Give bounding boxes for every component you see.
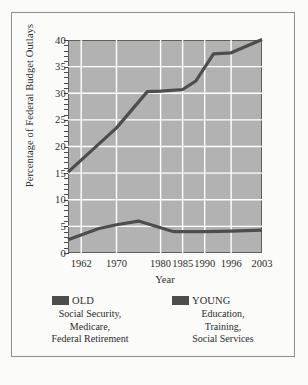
plot-area (68, 40, 262, 253)
series-line-old (68, 39, 262, 172)
legend-label-old: OLD (72, 295, 94, 306)
x-axis-tick-label: 1996 (214, 258, 248, 270)
y-axis-tick-label: 20 (40, 141, 66, 152)
legend-description-line: Medicare, (36, 321, 144, 334)
legend-description-line: Federal Retirement (36, 333, 144, 346)
series-line-young (68, 221, 262, 240)
x-axis-tick-label: 1962 (64, 258, 98, 270)
x-axis-tick-label: 2003 (245, 258, 279, 270)
legend-entry-young[interactable]: YOUNG (162, 294, 280, 307)
y-axis-tick-label: 30 (40, 88, 66, 99)
chart-legend: OLDSocial Security,Medicare,Federal Reti… (22, 294, 284, 352)
y-axis-tick-label: 35 (40, 61, 66, 72)
y-axis-tick-label: 10 (40, 194, 66, 205)
x-axis-title: Year (68, 274, 262, 285)
y-axis-tick-label: 25 (40, 114, 66, 125)
figure: Percentage of Federal Budget Outlays 403… (0, 0, 308, 385)
y-axis-tick-labels: 4035302520151050 (40, 33, 66, 260)
legend-column-young: YOUNGEducation,Training,Social Services (162, 294, 280, 352)
legend-swatch-old (52, 296, 69, 305)
legend-description-young: Education,Training,Social Services (162, 308, 280, 346)
legend-swatch-young (172, 296, 189, 305)
legend-label-young: YOUNG (192, 295, 230, 306)
legend-column-old: OLDSocial Security,Medicare,Federal Reti… (26, 294, 144, 352)
legend-description-line: Education, (166, 308, 280, 321)
y-axis-tick-label: 40 (40, 35, 66, 46)
legend-description-old: Social Security,Medicare,Federal Retirem… (26, 308, 144, 346)
legend-description-line: Social Services (166, 333, 280, 346)
x-axis-tick-labels: 1962197019801985199019962003 (56, 258, 276, 272)
y-axis-title: Percentage of Federal Budget Outlays (24, 6, 35, 206)
y-axis-minor-tick (64, 253, 69, 254)
y-axis-tick-label: 15 (40, 168, 66, 179)
legend-entry-old[interactable]: OLD (26, 294, 144, 307)
x-axis-tick-label: 1970 (100, 258, 134, 270)
legend-description-line: Training, (166, 321, 280, 334)
legend-description-line: Social Security, (36, 308, 144, 321)
y-axis-tick-label: 5 (40, 221, 66, 232)
y-axis-tick-label: 0 (40, 248, 66, 259)
data-series-group (68, 40, 262, 253)
